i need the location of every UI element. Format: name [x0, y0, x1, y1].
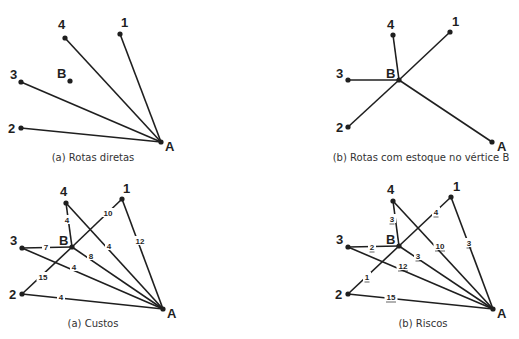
vertex-label-B: B — [386, 66, 395, 81]
panel-caption: (a) Rotas diretas — [52, 152, 135, 163]
vertex-A — [490, 306, 495, 311]
vertex-label-4: 4 — [58, 17, 66, 32]
edge-B-A — [399, 80, 492, 142]
edge-B-1 — [72, 199, 122, 247]
vertex-label-1: 1 — [453, 179, 460, 194]
vertex-2 — [18, 125, 23, 130]
vertex-2 — [345, 291, 350, 296]
vertex-label-4: 4 — [387, 182, 395, 197]
edge-B-A — [72, 247, 163, 309]
vertex-label-2: 2 — [336, 120, 343, 135]
edge-B-A — [399, 246, 493, 309]
vertex-A — [160, 306, 165, 311]
panel-caption: (a) Custos — [68, 318, 119, 329]
edge-weight-label: 2 — [370, 243, 375, 252]
vertex-2 — [19, 291, 24, 296]
vertex-label-A: A — [165, 139, 175, 154]
vertex-label-1: 1 — [123, 181, 130, 196]
edge-2-A — [348, 294, 493, 309]
edge-weight-label: 7 — [44, 243, 49, 252]
edge-1-A — [120, 34, 161, 142]
panel-rotas-com-estoque: 413B2A(b) Rotas com estoque no vértice B — [333, 14, 510, 163]
edge-3-A — [21, 82, 161, 142]
vertex-3 — [19, 245, 24, 250]
edge-weight-label: 4 — [434, 208, 439, 217]
vertex-3 — [345, 77, 350, 82]
edge-4-A — [393, 201, 493, 309]
edge-2-B — [348, 246, 399, 294]
graph-diagrams: 413B2A(a) Rotas diretas413B2A(b) Rotas c… — [0, 0, 519, 339]
vertex-4 — [390, 198, 395, 203]
edge-weight-label: 4 — [59, 293, 64, 302]
edge-weight-label: 3 — [390, 215, 395, 224]
vertex-3 — [345, 244, 350, 249]
edge-weight-label: 10 — [436, 242, 445, 251]
vertex-B — [396, 243, 401, 248]
vertex-label-1: 1 — [121, 15, 128, 30]
vertex-label-4: 4 — [387, 17, 395, 32]
vertex-label-2: 2 — [9, 287, 16, 302]
vertex-3 — [18, 79, 23, 84]
edge-weight-label: 3 — [467, 239, 472, 248]
vertex-label-3: 3 — [10, 233, 17, 248]
edge-weight-label: 3 — [416, 252, 421, 261]
vertex-1 — [448, 194, 453, 199]
edge-weight-label: 15 — [387, 293, 396, 302]
vertex-A — [158, 139, 163, 144]
vertex-label-2: 2 — [8, 121, 15, 136]
vertex-label-4: 4 — [60, 184, 68, 199]
vertex-B — [69, 244, 74, 249]
edge-2-B — [348, 80, 399, 127]
vertex-1 — [117, 31, 122, 36]
edge-2-A — [22, 294, 163, 309]
edge-1-A — [122, 199, 163, 309]
edge-1-A — [451, 197, 493, 309]
vertex-label-2: 2 — [335, 287, 342, 302]
vertex-label-3: 3 — [336, 232, 343, 247]
panel-riscos: 342131031215413B2A(b) Riscos — [335, 179, 507, 329]
panel-caption: (b) Riscos — [398, 318, 447, 329]
vertex-label-A: A — [167, 306, 177, 321]
vertex-4 — [63, 200, 68, 205]
edge-weight-label: 4 — [107, 242, 112, 251]
vertex-A — [489, 139, 494, 144]
vertex-label-3: 3 — [336, 66, 343, 81]
edge-weight-label: 12 — [399, 262, 408, 271]
edge-1-B — [399, 32, 450, 80]
edge-weight-label: 15 — [39, 273, 48, 282]
vertex-1 — [119, 196, 124, 201]
edge-4-A — [66, 203, 163, 309]
edge-2-B — [22, 247, 72, 294]
vertex-label-1: 1 — [452, 14, 459, 29]
panel-custos: 410715124844413B2A(a) Custos — [9, 181, 177, 329]
vertex-label-3: 3 — [10, 67, 17, 82]
vertex-B — [67, 78, 72, 83]
panel-caption: (b) Rotas com estoque no vértice B — [333, 152, 510, 163]
vertex-B — [396, 77, 401, 82]
edge-weight-label: 10 — [104, 209, 113, 218]
vertex-label-B: B — [386, 232, 395, 247]
vertex-label-B: B — [57, 66, 66, 81]
edge-B-1 — [399, 197, 451, 246]
vertex-label-A: A — [497, 306, 507, 321]
edge-weight-label: 8 — [89, 252, 94, 261]
edge-weight-label: 12 — [136, 237, 145, 246]
vertex-2 — [345, 124, 350, 129]
vertex-4 — [390, 32, 395, 37]
panel-rotas-diretas: 413B2A(a) Rotas diretas — [8, 15, 175, 163]
edge-weight-label: 4 — [65, 216, 70, 225]
vertex-label-B: B — [59, 233, 68, 248]
edge-4-A — [65, 38, 161, 142]
vertex-4 — [62, 35, 67, 40]
edge-weight-label: 1 — [365, 273, 370, 282]
vertex-1 — [447, 29, 452, 34]
edge-weight-label: 4 — [72, 263, 77, 272]
edge-2-A — [21, 128, 161, 142]
